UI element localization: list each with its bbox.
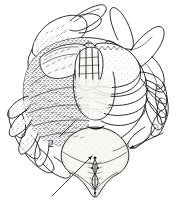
- annotation-label-2: 2: [48, 137, 54, 149]
- crab-illustration-figure: 2 Black and white ink drawing of a crab …: [0, 0, 182, 206]
- crab-drawing-canvas: 2: [0, 0, 182, 206]
